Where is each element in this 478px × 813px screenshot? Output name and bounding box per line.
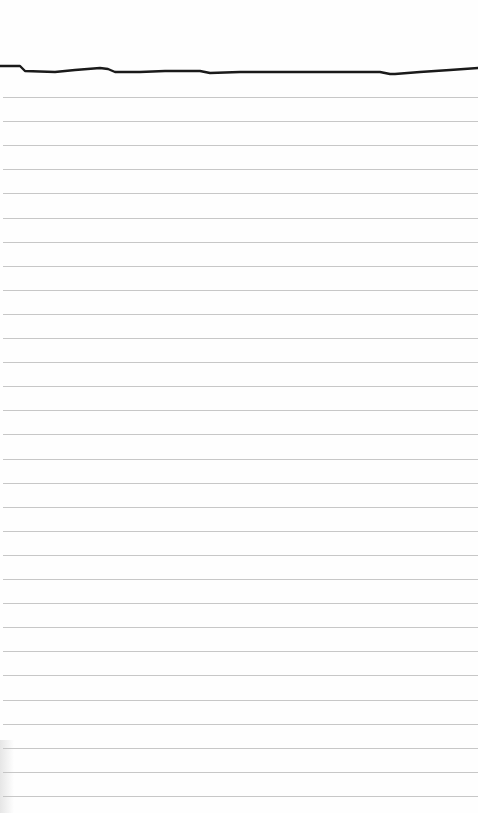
rule-line (3, 386, 478, 387)
rule-line (3, 169, 478, 170)
rule-line (3, 459, 478, 460)
rule-line (3, 675, 478, 676)
rule-line (3, 338, 478, 339)
rule-line (3, 483, 478, 484)
rule-line (3, 145, 478, 146)
rule-line (3, 507, 478, 508)
rule-line (3, 362, 478, 363)
rule-line (3, 290, 478, 291)
rule-line (3, 555, 478, 556)
rule-line (3, 796, 478, 797)
rule-line (3, 579, 478, 580)
rule-line (3, 603, 478, 604)
rule-line (3, 242, 478, 243)
rule-line (3, 434, 478, 435)
rule-line (3, 700, 478, 701)
rule-line (3, 97, 478, 98)
rule-line (3, 410, 478, 411)
rule-line (3, 772, 478, 773)
rule-line (3, 627, 478, 628)
rule-line (3, 724, 478, 725)
rule-line (3, 531, 478, 532)
rule-line (3, 121, 478, 122)
rule-line (3, 314, 478, 315)
rule-line (3, 651, 478, 652)
rule-line (3, 193, 478, 194)
rule-line (3, 748, 478, 749)
rule-line (3, 218, 478, 219)
notepad-page (0, 0, 478, 813)
ruled-lines (0, 0, 478, 813)
rule-line (3, 266, 478, 267)
